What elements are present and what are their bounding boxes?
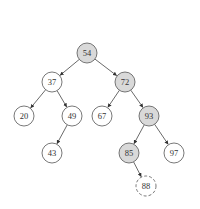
edge-37-20 — [31, 90, 46, 108]
tree-diagram: 5437722049679343859788 — [0, 0, 200, 209]
edge-72-67 — [108, 90, 120, 107]
edge-49-43 — [57, 125, 67, 144]
node-label: 43 — [48, 148, 57, 158]
tree-node-85: 85 — [119, 143, 139, 163]
node-label: 54 — [83, 48, 92, 58]
edge-72-93 — [131, 90, 143, 107]
edge-93-85 — [134, 125, 144, 144]
edge-54-37 — [60, 59, 79, 75]
node-label: 93 — [145, 111, 154, 121]
edge-85-88 — [134, 162, 142, 177]
tree-node-37: 37 — [42, 72, 62, 92]
nodes-group: 5437722049679343859788 — [14, 43, 184, 196]
edge-54-72 — [95, 59, 117, 76]
edge-37-49 — [57, 91, 67, 107]
tree-node-20: 20 — [14, 106, 34, 126]
tree-node-43: 43 — [42, 143, 62, 163]
node-label: 49 — [68, 111, 77, 121]
tree-node-72: 72 — [115, 72, 135, 92]
tree-node-49: 49 — [62, 106, 82, 126]
tree-node-97: 97 — [164, 143, 184, 163]
tree-node-54: 54 — [77, 43, 97, 63]
node-label: 97 — [170, 148, 179, 158]
tree-node-67: 67 — [92, 106, 112, 126]
node-label: 67 — [98, 111, 107, 121]
node-label: 72 — [121, 77, 130, 87]
node-label: 37 — [48, 77, 57, 87]
node-label: 85 — [125, 148, 134, 158]
node-label: 20 — [20, 111, 29, 121]
tree-node-93: 93 — [139, 106, 159, 126]
edge-93-97 — [155, 124, 169, 144]
node-label: 88 — [142, 181, 151, 191]
tree-node-88: 88 — [136, 176, 156, 196]
